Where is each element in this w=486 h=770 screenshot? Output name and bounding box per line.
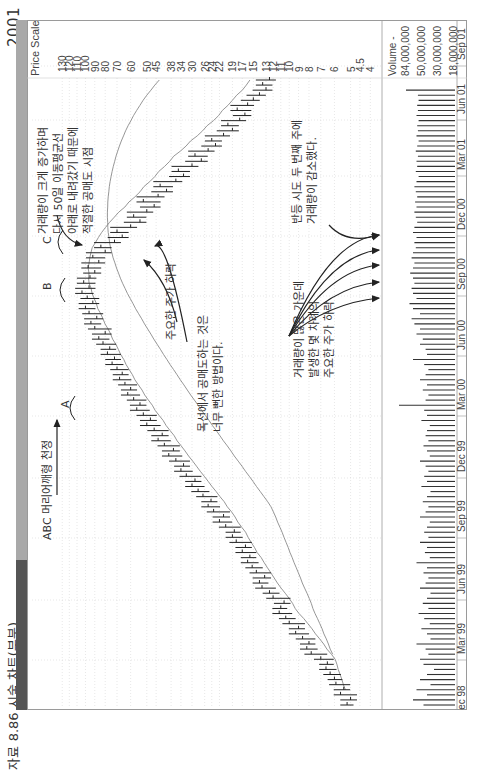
price-tick: 30 (187, 60, 198, 72)
annotation-heavy-volume-drops: 거래량이 많은 가운데 발생한 몇 차례의 주요한 주가 하락 (292, 281, 337, 378)
date-label: Sep 00 (456, 258, 467, 290)
price-tick: 8 (304, 66, 315, 72)
date-label: Mar 99 (456, 622, 467, 654)
annotation-wave-a: A (58, 400, 73, 408)
price-tick: 45 (151, 60, 162, 72)
date-label: Mar 00 (456, 378, 467, 410)
date-label: Jun 01 (456, 84, 467, 114)
volume-label: Volume - (387, 37, 398, 76)
price-tick: 17 (237, 60, 248, 72)
date-label: Sep 99 (456, 500, 467, 532)
annotation-neckline-short: 목선에서 공매도하는 것은 너무 뻔한 방법이다. (196, 315, 226, 432)
price-tick: 4 (365, 66, 376, 72)
price-tick: 34 (176, 60, 187, 72)
price-tick: 9 (294, 66, 305, 72)
date-label: Dec 98 (456, 685, 467, 710)
volume-bars (399, 90, 455, 705)
date-label: Jun 00 (456, 320, 467, 350)
annotation-wave-b: B (40, 282, 55, 290)
price-tick: 6 (329, 66, 340, 72)
stock-chart: Price Scale13012011010090807060504538343… (27, 20, 467, 710)
price-tick: 15 (248, 60, 259, 72)
chart-grid (27, 20, 467, 710)
date-label: Sep 01 (456, 28, 467, 60)
date-label: Jun 99 (456, 564, 467, 594)
annotation-wave-c: C (40, 236, 55, 244)
left-accent-bar-dark (16, 560, 27, 710)
volume-tick: 84,000,000 (400, 26, 411, 76)
price-tick: 70 (112, 60, 123, 72)
left-accent-bar (16, 20, 27, 560)
date-label: Mar 01 (456, 138, 467, 170)
date-label: Dec 99 (456, 440, 467, 472)
price-tick: 4.5 (355, 58, 366, 72)
annotation-rebound-volume: 반등 시도 두 번째 주에 거래량이 감소했다. (290, 120, 320, 224)
annotation-major-drop: 주요한 주가 하락 (164, 263, 179, 340)
price-tick: 80 (100, 60, 111, 72)
annotation-abc-top: ABC 머리어깨형 천정 (40, 440, 55, 540)
volume-tick: 50,000,000 (416, 26, 427, 76)
date-label: Dec 00 (456, 198, 467, 230)
price-tick: 7 (316, 66, 327, 72)
volume-tick: 30,000,000 (432, 26, 443, 76)
price-scale-label: Price Scale (29, 20, 41, 76)
price-tick: 60 (126, 60, 137, 72)
annotation-volume-surge: 거래량이 크게 증가하며 다시 50일 이동평균선 아래로 내려갔기 때문에 적… (36, 127, 96, 234)
price-tick: 90 (90, 60, 101, 72)
price-tick: 22 (214, 60, 225, 72)
